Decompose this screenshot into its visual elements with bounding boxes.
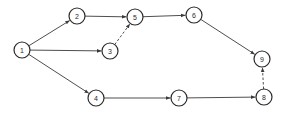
- node-7: 7: [171, 90, 187, 106]
- node-6: 6: [186, 7, 202, 23]
- node-2: 2: [69, 8, 85, 24]
- edges-layer: [29, 15, 264, 98]
- node-label: 8: [262, 94, 266, 101]
- nodes-layer: 123456789: [14, 7, 272, 106]
- node-label: 6: [192, 12, 196, 19]
- node-label: 3: [108, 48, 112, 55]
- node-4: 4: [88, 90, 104, 106]
- edge-3-5: [115, 24, 130, 45]
- node-label: 5: [133, 14, 137, 21]
- edge-1-2: [29, 20, 70, 45]
- edge-2-5: [85, 16, 127, 17]
- node-5: 5: [127, 9, 143, 25]
- node-label: 9: [260, 56, 264, 63]
- edge-6-9: [201, 19, 255, 54]
- node-label: 4: [94, 95, 98, 102]
- node-9: 9: [254, 51, 270, 67]
- edge-1-4: [29, 54, 89, 93]
- network-diagram: 123456789: [0, 0, 286, 121]
- edge-7-8: [187, 97, 256, 98]
- node-label: 2: [75, 13, 79, 20]
- node-3: 3: [102, 43, 118, 59]
- edge-1-3: [30, 50, 102, 51]
- node-label: 7: [177, 95, 181, 102]
- edge-8-9: [262, 67, 263, 89]
- node-8: 8: [256, 89, 272, 105]
- edge-5-6: [143, 15, 186, 16]
- node-label: 1: [20, 47, 24, 54]
- node-1: 1: [14, 42, 30, 58]
